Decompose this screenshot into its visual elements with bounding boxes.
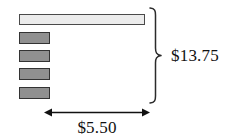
total-bar [19,14,145,25]
part-bar [19,87,50,99]
part-bar [19,50,50,62]
part-bar [19,68,50,80]
part-bar [19,32,50,44]
part-value-label: $5.50 [47,119,147,137]
right-curly-brace-icon [147,6,169,106]
brace-group [147,6,169,106]
tape-diagram: $13.75 $5.50 [0,0,231,140]
total-value-label: $13.75 [171,47,219,65]
